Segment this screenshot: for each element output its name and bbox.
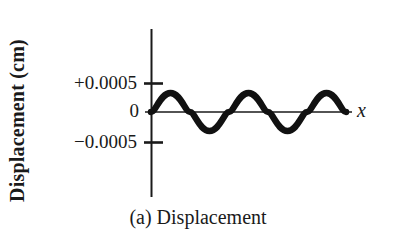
- x-axis-label: x: [357, 99, 366, 122]
- plot-area: [0, 0, 396, 241]
- tick-label-positive: +0.0005: [74, 73, 137, 92]
- tick-label-zero: 0: [130, 101, 140, 120]
- displacement-figure: Displacement (cm) +0.0005 0 −0.0005 x (a…: [0, 0, 396, 241]
- figure-caption: (a) Displacement: [0, 206, 396, 229]
- tick-label-negative: −0.0005: [74, 132, 137, 151]
